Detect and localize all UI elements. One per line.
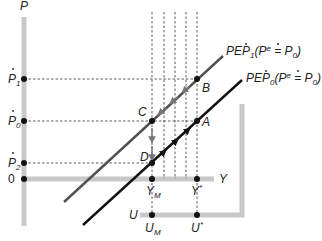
point-label-b: B [202, 81, 210, 95]
svg-text:0: 0 [16, 121, 21, 130]
point-label-c: C [138, 105, 147, 119]
point-d [149, 160, 155, 166]
label-um: U M [145, 221, 161, 237]
svg-text:M: M [154, 191, 161, 200]
svg-text:P: P [8, 72, 16, 86]
dot-p2 [21, 160, 27, 166]
dot-um [149, 212, 155, 218]
point-b [194, 76, 200, 82]
pep-diagram: P Y 0 U P 1 P 0 P 2 B C A D Y M Y * U M … [0, 0, 322, 241]
svg-text:PEP0(Pe = P0): PEP0(Pe = P0) [246, 71, 321, 87]
label-ystar: Y * [191, 183, 203, 198]
dot-p1 [21, 76, 27, 82]
point-c [149, 118, 155, 124]
label-pep1: PEP1(Pe = P0) [226, 43, 301, 60]
point-a [194, 118, 200, 124]
label-p2: P 2 [8, 152, 21, 172]
label-pep0: PEP0(Pe = P0) [246, 70, 321, 87]
svg-text:P: P [8, 156, 16, 170]
dot-ustar [194, 212, 200, 218]
dot-p0 [21, 118, 27, 124]
axis-label-p: P [20, 0, 28, 13]
label-p0: P 0 [8, 110, 21, 130]
axis-label-y: Y [219, 172, 228, 186]
svg-text:M: M [154, 228, 161, 237]
svg-text:P: P [8, 114, 16, 128]
dot-ym [149, 176, 155, 182]
axis-label-u: U [129, 208, 138, 222]
origin-label: 0 [8, 172, 15, 186]
dot-origin [21, 176, 27, 182]
svg-text:U: U [191, 221, 200, 235]
dot-ystar [194, 176, 200, 182]
point-label-a: A [201, 115, 210, 129]
svg-text:1: 1 [16, 79, 20, 88]
svg-text:2: 2 [15, 163, 21, 172]
svg-text:*: * [199, 183, 203, 192]
label-p1: P 1 [8, 68, 20, 88]
svg-text:U: U [145, 221, 154, 235]
svg-text:PEP1(Pe = P0): PEP1(Pe = P0) [226, 44, 301, 60]
label-ym: Y M [146, 184, 161, 200]
point-label-d: D [140, 150, 149, 164]
label-ustar: U * [191, 220, 204, 235]
svg-text:*: * [200, 220, 204, 229]
